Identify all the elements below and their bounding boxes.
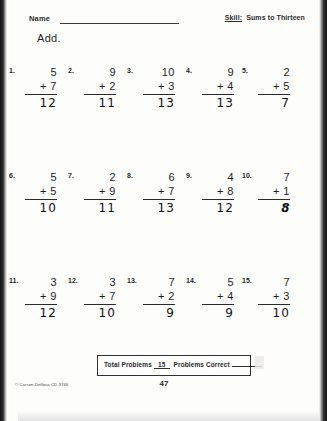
problem-operand: + 3 <box>143 79 175 95</box>
problem-operand: + 2 <box>84 79 116 95</box>
problem-addend: 7 <box>258 171 290 184</box>
problem-answer[interactable]: 12 <box>25 95 57 111</box>
worksheet-scan: Name Skill: Sums to Thirteen Add. 1. 5 +… <box>0 0 327 421</box>
problem-addend: 2 <box>84 171 116 184</box>
problem-answer[interactable]: 10 <box>25 200 57 216</box>
problem-addend: 4 <box>202 171 234 184</box>
problem-answer[interactable]: 7 <box>258 95 290 111</box>
problem-answer[interactable]: 8 <box>258 200 290 216</box>
problem-10: 10. 7 + 1 8 <box>242 171 298 217</box>
problem-operand: + 9 <box>25 289 57 305</box>
problem-operand: + 7 <box>84 289 116 305</box>
problem-answer[interactable]: 12 <box>25 305 57 321</box>
problem-6: 6. 5 + 5 10 <box>9 171 65 217</box>
problem-number: 12. <box>68 277 78 284</box>
problem-number: 6. <box>9 172 15 179</box>
scan-smudge <box>255 356 264 369</box>
problem-number: 14. <box>186 277 196 284</box>
problem-addend: 5 <box>25 171 57 184</box>
problem-answer[interactable]: 11 <box>84 200 116 216</box>
worksheet-header: Name Skill: Sums to Thirteen <box>29 14 305 28</box>
problem-sum: 7 + 1 8 <box>258 171 290 216</box>
problem-answer[interactable]: 9 <box>202 305 234 321</box>
problem-sum: 3 + 7 10 <box>84 276 116 321</box>
problem-number: 11. <box>9 277 18 284</box>
problem-answer[interactable]: 13 <box>143 200 175 216</box>
problem-operand: + 2 <box>143 289 175 305</box>
problem-14: 14. 5 + 4 9 <box>186 276 242 322</box>
problem-operand: + 8 <box>202 184 234 200</box>
problem-number: 7. <box>68 172 74 179</box>
problem-12: 12. 3 + 7 10 <box>68 276 124 322</box>
name-blank-line[interactable] <box>60 23 179 24</box>
skill-label: Skill: <box>225 14 242 21</box>
problem-3: 3. 10 + 3 13 <box>127 66 183 112</box>
problem-sum: 4 + 8 12 <box>202 171 234 216</box>
page-number: 47 <box>9 379 319 388</box>
problem-number: 1. <box>9 67 15 74</box>
problem-7: 7. 2 + 9 11 <box>68 171 124 217</box>
problem-15: 15. 7 + 3 10 <box>242 276 298 322</box>
problem-9: 9. 4 + 8 12 <box>186 171 242 217</box>
problem-answer[interactable]: 12 <box>202 200 234 216</box>
problem-sum: 5 + 7 12 <box>25 66 57 111</box>
name-label: Name <box>29 14 50 23</box>
problem-sum: 6 + 7 13 <box>143 171 175 216</box>
problem-addend: 3 <box>25 276 57 289</box>
worksheet-page: Name Skill: Sums to Thirteen Add. 1. 5 +… <box>9 0 319 421</box>
problem-addend: 7 <box>258 276 290 289</box>
scan-edge-right <box>319 0 327 421</box>
problem-answer[interactable]: 11 <box>84 95 116 111</box>
problem-number: 9. <box>186 172 192 179</box>
problem-addend: 7 <box>143 276 175 289</box>
problem-sum: 9 + 4 13 <box>202 66 234 111</box>
problem-operand: + 1 <box>258 184 290 200</box>
problem-addend: 6 <box>143 171 175 184</box>
problem-13: 13. 7 + 2 9 <box>127 276 183 322</box>
problem-number: 3. <box>127 67 133 74</box>
problem-operand: + 7 <box>143 184 175 200</box>
problem-answer[interactable]: 9 <box>143 305 175 321</box>
problem-operand: + 5 <box>25 184 57 200</box>
problem-row: 1. 5 + 7 12 2. 9 + 2 11 3. 10 + <box>9 66 291 112</box>
problem-4: 4. 9 + 4 13 <box>186 66 242 112</box>
problem-sum: 5 + 5 10 <box>25 171 57 216</box>
problem-answer[interactable]: 10 <box>258 305 290 321</box>
problems-correct-label: Problems Correct <box>174 361 230 368</box>
problem-addend: 5 <box>202 276 234 289</box>
skill-value: Sums to Thirteen <box>246 14 305 21</box>
problem-operand: + 4 <box>202 79 234 95</box>
problem-number: 8. <box>127 172 133 179</box>
problem-addend: 10 <box>143 66 175 79</box>
problem-operand: + 5 <box>258 79 290 95</box>
total-problems-value[interactable]: 15 <box>154 361 170 369</box>
problem-answer[interactable]: 10 <box>84 305 116 321</box>
problem-operand: + 4 <box>202 289 234 305</box>
problem-row: 6. 5 + 5 10 7. 2 + 9 11 8. 6 + <box>9 171 291 217</box>
scan-edge-left <box>0 0 7 421</box>
problem-5: 5. 2 + 5 7 <box>242 66 298 112</box>
problem-answer[interactable]: 13 <box>202 95 234 111</box>
problem-addend: 9 <box>202 66 234 79</box>
score-box: Total Problems 15 Problems Correct <box>97 355 251 376</box>
problem-sum: 2 + 5 7 <box>258 66 290 111</box>
problem-sum: 7 + 2 9 <box>143 276 175 321</box>
score-box-content: Total Problems 15 Problems Correct <box>104 361 262 369</box>
problem-sum: 2 + 9 11 <box>84 171 116 216</box>
problem-addend: 3 <box>84 276 116 289</box>
problem-sum: 3 + 9 12 <box>25 276 57 321</box>
problem-number: 5. <box>242 67 248 74</box>
problem-sum: 10 + 3 13 <box>143 66 175 111</box>
problem-sum: 7 + 3 10 <box>258 276 290 321</box>
problem-addend: 9 <box>84 66 116 79</box>
problem-addend: 5 <box>25 66 57 79</box>
problem-operand: + 9 <box>84 184 116 200</box>
problem-answer[interactable]: 13 <box>143 95 175 111</box>
problem-row: 11. 3 + 9 12 12. 3 + 7 10 13. 7 <box>9 276 291 322</box>
problem-addend: 2 <box>258 66 290 79</box>
scan-bottom-shadow <box>18 411 327 421</box>
problem-2: 2. 9 + 2 11 <box>68 66 124 112</box>
total-problems-label: Total Problems <box>104 361 152 368</box>
problem-number: 2. <box>68 67 74 74</box>
skill-line: Skill: Sums to Thirteen <box>225 14 305 21</box>
